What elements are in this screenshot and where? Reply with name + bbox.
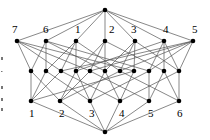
node-a5	[147, 99, 152, 104]
node-label-c5: 5	[192, 23, 198, 35]
node-label-c7: 7	[12, 23, 18, 35]
node-label-c2: 2	[109, 23, 115, 35]
node-label-c1: 1	[75, 23, 81, 35]
node-a1	[29, 99, 34, 104]
node-m4	[74, 69, 79, 74]
node-label-a5: 5	[148, 107, 154, 119]
edge-c5-m3	[61, 41, 193, 71]
edge-m10-a6	[164, 71, 179, 101]
node-m6	[103, 69, 108, 74]
edge-c1-m3	[61, 41, 76, 71]
node-label-a4: 4	[119, 107, 125, 119]
node-label-c3: 3	[131, 23, 137, 35]
node-c5	[191, 39, 196, 44]
hasse-diagram: 7612345123456	[0, 0, 210, 140]
node-a6	[177, 99, 182, 104]
node-m10	[162, 69, 167, 74]
edge-c3-m8	[134, 41, 135, 71]
edge-top-c5	[105, 10, 193, 41]
node-bottom	[103, 130, 108, 135]
node-c6	[44, 39, 49, 44]
node-c3	[133, 39, 138, 44]
node-a4	[118, 99, 123, 104]
node-a3	[88, 99, 93, 104]
node-top	[103, 8, 108, 13]
node-label-a3: 3	[89, 107, 95, 119]
edge-m4-a2	[60, 71, 76, 101]
node-m7	[118, 69, 123, 74]
node-c4	[162, 39, 167, 44]
edge-c7-m5	[17, 41, 90, 71]
node-m9	[147, 69, 152, 74]
node-m3	[59, 69, 64, 74]
edge-a2-bottom	[60, 101, 105, 132]
node-m5	[88, 69, 93, 74]
edge-m2-a1	[31, 71, 46, 101]
node-m2	[44, 69, 49, 74]
node-m11	[177, 69, 182, 74]
edge-m5-a2	[60, 71, 90, 101]
edge-m6-a3	[90, 71, 105, 101]
node-m1	[29, 69, 34, 74]
edge-m8-a4	[120, 71, 134, 101]
edge-c4-m4	[76, 41, 164, 71]
edge-m10-a5	[149, 71, 164, 101]
node-m8	[132, 69, 137, 74]
node-a2	[58, 99, 63, 104]
node-c2	[103, 39, 108, 44]
node-label-c4: 4	[163, 23, 169, 35]
node-label-a1: 1	[29, 107, 35, 119]
edge-c2-m5	[90, 41, 105, 71]
node-c7	[15, 39, 20, 44]
edge-a4-bottom	[105, 101, 120, 132]
node-label-a2: 2	[59, 107, 65, 119]
node-label-a6: 6	[177, 107, 183, 119]
left-margin-text-fragments	[1, 57, 3, 111]
edge-top-c7	[17, 10, 105, 41]
node-label-c6: 6	[43, 23, 49, 35]
node-c1	[74, 39, 79, 44]
